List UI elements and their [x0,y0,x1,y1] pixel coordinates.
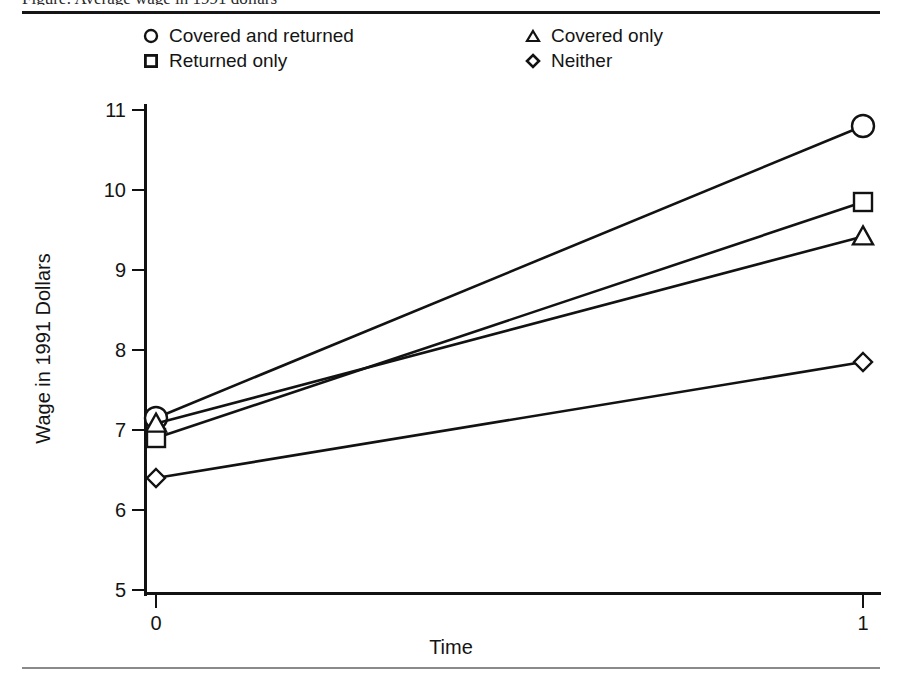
y-axis-tick-label: 6 [86,500,126,520]
y-axis-tick-label: 10 [86,180,126,200]
data-point-square [854,193,872,211]
y-axis-tick-label: 8 [86,340,126,360]
y-axis-tick-label: 9 [86,260,126,280]
series-circle [145,115,874,429]
series-line [156,236,863,423]
legend-label: Returned only [169,51,287,71]
legend-entry-returned-only: Returned only [142,51,287,71]
triangle-marker-icon [524,27,542,45]
plot-series-layer [0,0,902,676]
bottom-rule [22,667,880,669]
legend-label: Neither [551,51,612,71]
legend-label: Covered and returned [169,26,354,46]
series-square [147,193,872,447]
y-axis-tick [132,509,145,511]
legend-entry-covered-and-returned: Covered and returned [142,26,354,46]
data-point-diamond [147,469,165,487]
data-point-circle [145,407,167,429]
y-axis-tick-label: 11 [86,100,126,120]
x-axis-tick [155,594,157,608]
y-axis-label: Wage in 1991 Dollars [32,189,55,509]
data-point-circle [852,115,874,137]
y-axis-tick [132,109,145,111]
data-point-square [147,429,165,447]
figure-title-cropped: Figure: Average wage in 1991 dollars [22,0,880,5]
legend-entry-covered-only: Covered only [524,26,663,46]
y-axis-tick-label: 7 [86,420,126,440]
data-point-diamond [854,353,872,371]
y-axis-tick [132,189,145,191]
x-axis-tick-label: 0 [136,612,176,634]
series-line [156,362,863,478]
y-axis-tick [132,269,145,271]
legend-label: Covered only [551,26,663,46]
top-rule [22,11,880,14]
data-point-triangle [146,414,166,432]
figure-panel: Figure: Average wage in 1991 dollars Cov… [0,0,902,676]
series-triangle [146,226,873,431]
legend-entry-neither: Neither [524,51,612,71]
diamond-marker-icon [524,52,542,70]
square-marker-icon [142,52,160,70]
circle-marker-icon [142,27,160,45]
series-line [156,126,863,418]
y-axis-tick [132,589,145,591]
y-axis-tick [132,429,145,431]
series-line [156,202,863,438]
chart-legend: Covered and returned Returned only Cover… [0,26,902,78]
x-axis-tick [862,594,864,608]
y-axis-tick [132,349,145,351]
data-point-triangle [853,226,873,244]
series-diamond [147,353,872,487]
x-axis-tick-label: 1 [843,612,883,634]
x-axis-label: Time [0,636,902,659]
y-axis-tick-label: 5 [86,580,126,600]
x-axis-line [144,592,881,595]
